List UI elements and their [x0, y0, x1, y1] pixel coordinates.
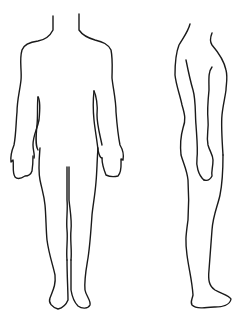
front-left-inner-arm-2: [36, 97, 38, 150]
side-figure: [175, 24, 231, 308]
front-crotch-line: [67, 167, 68, 260]
front-figure: [11, 14, 124, 309]
side-arm-back-edge: [186, 60, 204, 180]
front-right-inner-arm-2: [94, 91, 102, 145]
body-outline-diagram: [0, 0, 244, 319]
side-front-contour: [211, 33, 227, 155]
side-back-contour: [175, 24, 231, 308]
front-right-torso-leg: [71, 148, 98, 308]
front-left-torso-leg: [39, 148, 68, 309]
front-crotch-line-2: [69, 167, 71, 260]
side-arm-front-edge: [204, 67, 213, 180]
front-right-outer-contour: [79, 14, 123, 177]
front-left-outer-contour: [11, 16, 53, 179]
